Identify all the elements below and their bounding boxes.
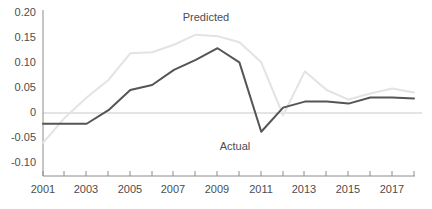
x-tick-label-2015: 2015 — [336, 183, 360, 195]
x-tick-label-2011: 2011 — [249, 183, 273, 195]
y-tick-label-0-10: 0.10 — [15, 56, 36, 68]
x-tick-label-2003: 2003 — [74, 183, 98, 195]
y-tick-label-0-20: 0.20 — [15, 6, 36, 18]
y-tick-label-0-15: 0.15 — [15, 31, 36, 43]
y-tick-label-neg-0-10: -0.10 — [11, 156, 36, 168]
y-tick-label-0: 0 — [30, 106, 36, 118]
x-tick-label-2005: 2005 — [118, 183, 142, 195]
series-annotation-predicted: Predicted — [183, 11, 229, 23]
x-axis-ticks — [43, 171, 414, 176]
series-line-actual — [43, 48, 414, 132]
series-line-predicted — [43, 35, 414, 143]
x-tick-label-2001: 2001 — [31, 183, 55, 195]
y-tick-label-neg-0-05: -0.05 — [11, 131, 36, 143]
x-tick-label-2017: 2017 — [380, 183, 404, 195]
x-tick-label-2009: 2009 — [205, 183, 229, 195]
x-tick-label-2007: 2007 — [161, 183, 185, 195]
line-chart: 0.20 0.15 0.10 0.05 0 -0.05 -0.10 2001 2… — [0, 0, 432, 209]
chart-canvas: 0.20 0.15 0.10 0.05 0 -0.05 -0.10 2001 2… — [0, 0, 432, 209]
x-tick-label-2013: 2013 — [292, 183, 316, 195]
y-tick-label-0-05: 0.05 — [15, 81, 36, 93]
series-annotation-actual: Actual — [220, 140, 251, 152]
